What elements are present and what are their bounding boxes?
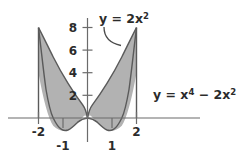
upper-curve-annotation: y = 2x2	[99, 11, 149, 46]
lower-curve-label-base: y = x	[153, 87, 188, 102]
x-tick-label-minus2: -2	[32, 125, 45, 139]
y-tick-labels: 8 6 4 2	[69, 21, 77, 103]
upper-curve-label-exponent: 2	[143, 11, 149, 21]
lower-curve-label-mid: − 2x	[194, 87, 230, 102]
x-tick-label-2: 2	[132, 125, 140, 139]
lower-curve-annotation: y = x4 − 2x2	[153, 87, 236, 103]
y-tick-label-2: 2	[69, 89, 77, 103]
y-tick-label-8: 8	[69, 21, 77, 35]
x-tick-labels: -2 2 -1 1	[32, 125, 141, 153]
x-tick-label-minus1: -1	[56, 139, 69, 153]
upper-curve-leader-line	[104, 27, 121, 46]
lower-curve-label-exponent-2: 2	[230, 87, 236, 97]
y-tick-label-6: 6	[69, 44, 77, 58]
y-tick-label-4: 4	[69, 66, 77, 80]
x-tick-label-1: 1	[108, 139, 116, 153]
upper-curve-label-base: y = 2x	[99, 11, 143, 26]
upper-curve-label: y = 2x2	[99, 11, 149, 27]
math-plot-figure: 8 6 4 2 -2 2 -1 1 y = 2x2 y = x4 − 2x2	[0, 0, 238, 163]
lower-curve-label: y = x4 − 2x2	[153, 87, 236, 103]
